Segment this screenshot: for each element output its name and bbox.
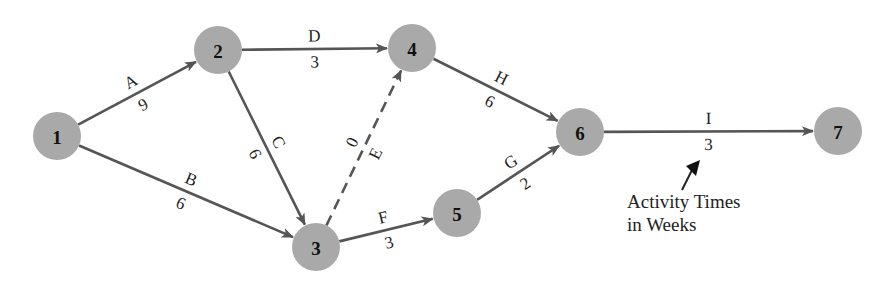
activity-time: 2: [516, 173, 534, 194]
node-label: 1: [52, 127, 62, 148]
annotation-pointer-line: [682, 170, 692, 190]
annotation: Activity Times in Weeks: [627, 160, 741, 235]
network-diagram: A9B6C6D3E0F3G2H6I3 1234567 Activity Time…: [0, 0, 890, 285]
annotation-line-2: in Weeks: [627, 214, 696, 235]
edge-arrow-line: [79, 145, 293, 237]
activity-label: B: [182, 168, 200, 190]
activity-label: G: [501, 151, 522, 174]
edge-arrow-line: [477, 146, 559, 200]
edge-arrow-line: [229, 71, 305, 224]
node-label: 5: [452, 204, 462, 225]
edge-arrow-line: [326, 71, 401, 226]
node-label: 4: [407, 39, 417, 60]
activity-label: I: [706, 109, 712, 128]
node-7: 7: [814, 107, 862, 155]
node-label: 3: [311, 238, 321, 259]
edge-b: B6: [79, 145, 293, 237]
edge-c: C6: [229, 71, 305, 224]
activity-label: C: [267, 133, 289, 152]
node-3: 3: [292, 223, 340, 271]
activity-time: 3: [704, 135, 713, 154]
edge-arrow-line: [242, 48, 387, 49]
node-6: 6: [556, 108, 604, 156]
annotation-arrow-icon: [686, 160, 700, 176]
edge-d: D3: [242, 26, 387, 71]
edge-arrow-line: [78, 62, 196, 125]
node-1: 1: [33, 112, 81, 160]
activity-label: D: [308, 26, 320, 45]
node-label: 6: [575, 123, 585, 144]
edge-i: I3: [604, 109, 813, 154]
activity-label: E: [365, 145, 387, 163]
node-2: 2: [194, 26, 242, 74]
edge-g: G2: [477, 146, 559, 200]
edge-a: A9: [78, 62, 196, 125]
node-label: 2: [213, 41, 223, 62]
activity-time: 6: [245, 146, 266, 162]
edge-h: H6: [433, 59, 557, 121]
activity-label: F: [376, 207, 390, 228]
node-label: 7: [833, 122, 843, 143]
node-5: 5: [433, 189, 481, 237]
activity-time: 6: [482, 91, 498, 112]
annotation-line-1: Activity Times: [627, 191, 741, 212]
node-4: 4: [388, 24, 436, 72]
activity-time: 6: [173, 193, 188, 214]
edge-arrow-line: [433, 59, 557, 121]
activity-time: 0: [342, 134, 363, 150]
edge-e: E0: [326, 71, 401, 226]
activity-time: 9: [135, 94, 151, 115]
activity-time: 3: [310, 52, 319, 71]
activity-label: H: [492, 67, 511, 89]
nodes: 1234567: [33, 24, 862, 271]
edge-f: F3: [339, 207, 432, 253]
edge-arrow-line: [604, 131, 813, 132]
activity-time: 3: [383, 233, 396, 253]
activity-label: A: [121, 70, 141, 93]
